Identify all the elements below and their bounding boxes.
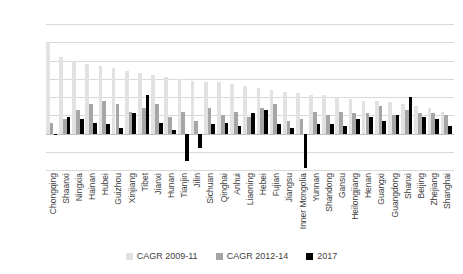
x-axis-label-cell: Shanghai (441, 171, 454, 251)
legend-label: 2017 (317, 251, 337, 261)
bar (277, 124, 281, 133)
bar (422, 117, 426, 133)
bar-group (164, 24, 177, 170)
bar (185, 134, 189, 161)
x-axis-label-cell: Liaoning (243, 171, 256, 251)
bar (304, 134, 308, 169)
x-axis-tick-label: Henan (364, 173, 373, 198)
x-axis-tick-label: Hubei (101, 173, 110, 195)
legend-item[interactable]: CAGR 2012-14 (216, 251, 289, 261)
x-axis-label-cell: Guizhou (112, 171, 125, 251)
x-axis-label-cell: Yunnan (309, 171, 322, 251)
bar-group (125, 24, 138, 170)
x-axis-label-cell: Beijing (414, 171, 427, 251)
x-axis-label-cell: Henan (362, 171, 375, 251)
x-axis-label-cell: Inner Mongolia (296, 171, 309, 251)
bar-group (151, 24, 164, 170)
bar-group (138, 24, 151, 170)
bar (264, 110, 268, 134)
bar (356, 119, 360, 134)
x-axis-tick-label: Tibet (140, 173, 149, 192)
bar-group (296, 24, 309, 170)
x-axis-tick-label: Jiangsu (285, 173, 294, 202)
bar (198, 134, 202, 149)
x-axis-tick-label: Shaanxi (61, 173, 70, 204)
x-axis-tick-label: Jilin (193, 173, 202, 188)
bar (159, 123, 163, 134)
x-axis-label-cell: Tibet (138, 171, 151, 251)
bar (225, 123, 229, 134)
legend-label: CAGR 2009-11 (137, 251, 198, 261)
x-axis-tick-label: Xinjiang (127, 173, 136, 203)
bar (382, 121, 386, 134)
bar (330, 124, 334, 133)
x-axis-label-cell: Zhejiang (428, 171, 441, 251)
x-axis-label-cell: Jilin (191, 171, 204, 251)
bar (106, 124, 110, 133)
bar-group (335, 24, 348, 170)
x-axis-tick-label: Hebei (259, 173, 268, 195)
bar-group (99, 24, 112, 170)
x-axis-tick-label: Guizhou (114, 173, 123, 205)
legend-label: CAGR 2012-14 (227, 251, 289, 261)
x-axis-tick-label: Ningxia (75, 173, 84, 201)
x-axis-label-cell: Heilongjiang (349, 171, 362, 251)
legend-swatch-icon (306, 253, 313, 260)
bar (67, 117, 71, 133)
bar (132, 113, 136, 133)
bar (300, 119, 304, 134)
bar-group (112, 24, 125, 170)
bar-group (85, 24, 98, 170)
bar (396, 115, 400, 133)
x-axis-tick-label: Anhui (233, 173, 242, 195)
bar-group (322, 24, 335, 170)
bar (194, 121, 198, 134)
x-axis-label-cell: Hebei (257, 171, 270, 251)
chart-legend: CAGR 2009-11CAGR 2012-142017 (0, 251, 463, 261)
x-axis-label-cell: Hubei (99, 171, 112, 251)
x-axis-tick-label: Shanghai (443, 173, 452, 209)
legend-item[interactable]: 2017 (306, 251, 337, 261)
bar (211, 124, 215, 133)
bar-group (428, 24, 441, 170)
bar-group (46, 24, 59, 170)
x-axis-label-cell: Anhui (230, 171, 243, 251)
bar-group (270, 24, 283, 170)
x-axis-tick-label: Chongqing (48, 173, 57, 214)
bar-group (243, 24, 256, 170)
bar-group (375, 24, 388, 170)
bar-group (72, 24, 85, 170)
x-axis-label-cell: Shanxi (401, 171, 414, 251)
bar (290, 128, 294, 133)
bar (448, 126, 452, 133)
bar (46, 42, 50, 133)
legend-swatch-icon (126, 253, 133, 260)
bar (54, 134, 58, 136)
x-axis-tick-label: Hunan (167, 173, 176, 198)
x-axis-tick-label: Fujian (272, 173, 281, 196)
x-axis-tick-label: Guangdong (390, 173, 399, 217)
x-axis-tick-label: Tianjin (180, 173, 189, 198)
bar-group (59, 24, 72, 170)
x-axis-tick-label: Gansu (338, 173, 347, 198)
bar (435, 119, 439, 134)
x-axis-tick-label: Beijing (417, 173, 426, 199)
x-axis-label-cell: Guangdong (388, 171, 401, 251)
x-axis-tick-label: Hainan (88, 173, 97, 200)
bar (369, 117, 373, 133)
bar (119, 128, 123, 133)
x-axis-label-cell: Shandong (322, 171, 335, 251)
bar (80, 119, 84, 134)
bar-group (441, 24, 454, 170)
x-axis-tick-label: Yunnan (311, 173, 320, 202)
legend-item[interactable]: CAGR 2009-11 (126, 251, 198, 261)
legend-swatch-icon (216, 253, 223, 260)
bar-group (217, 24, 230, 170)
x-axis-label-cell: Qinghai (217, 171, 230, 251)
bar-group (257, 24, 270, 170)
bar (172, 130, 176, 134)
bar-group (349, 24, 362, 170)
x-axis-tick-label: Jianxi (154, 173, 163, 195)
x-axis-label-cell: Xinjiang (125, 171, 138, 251)
bar (409, 97, 413, 134)
